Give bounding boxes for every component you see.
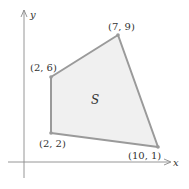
x-axis-label: x: [173, 157, 179, 168]
diagram-canvas: x y (2, 6) (7, 9) (10, 1) (2, 2) S: [0, 0, 189, 189]
vertex-dot-2-6: [49, 75, 53, 79]
vertex-label-2-2: (2, 2): [39, 138, 66, 149]
vertex-label-2-6: (2, 6): [30, 62, 57, 73]
vertex-dot-10-1: [156, 145, 160, 149]
vertex-label-10-1: (10, 1): [128, 150, 161, 161]
vertex-dot-2-2: [49, 131, 53, 135]
region-label: S: [91, 93, 99, 107]
vertex-dot-7-9: [116, 33, 120, 37]
vertex-label-7-9: (7, 9): [108, 21, 135, 32]
region-s: [51, 35, 158, 147]
diagram-svg: x y (2, 6) (7, 9) (10, 1) (2, 2) S: [0, 0, 189, 189]
y-axis-label: y: [29, 9, 36, 20]
